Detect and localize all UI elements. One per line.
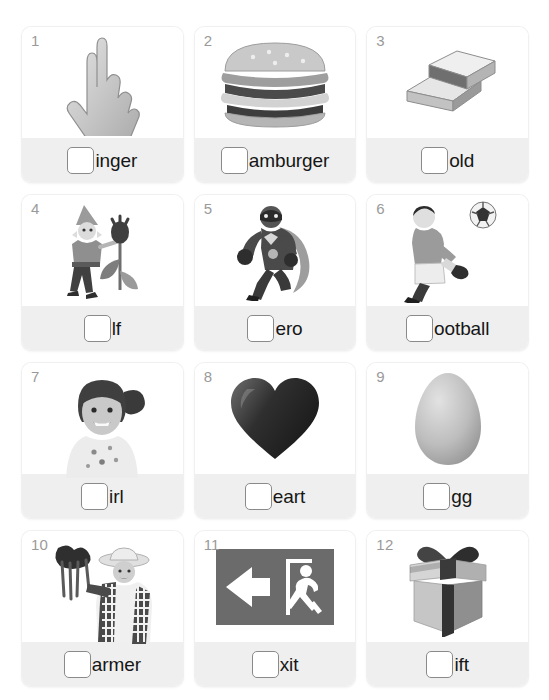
card-number: 4 — [31, 201, 40, 216]
missing-letter-box[interactable] — [252, 651, 279, 678]
missing-letter-box[interactable] — [245, 483, 272, 510]
card-number: 5 — [204, 201, 213, 216]
heart-icon — [195, 363, 356, 474]
card-answer-area: ootball — [367, 306, 528, 350]
card-answer-area: amburger — [195, 138, 356, 182]
card-row: 7 — [22, 363, 528, 518]
word-card[interactable]: 3 old — [367, 27, 528, 182]
card-answer-area: armer — [22, 642, 183, 686]
card-image-area: 7 — [22, 363, 183, 474]
card-number: 9 — [376, 369, 385, 384]
word-tail: amburger — [249, 151, 330, 170]
card-image-area: 1 — [22, 27, 183, 138]
card-image-area: 11 — [195, 531, 356, 642]
card-image-area: 6 — [367, 195, 528, 306]
card-answer-area: gg — [367, 474, 528, 518]
word-card[interactable]: 10 — [22, 531, 183, 686]
card-answer-area: ift — [367, 642, 528, 686]
card-image-area: 12 — [367, 531, 528, 642]
missing-letter-box[interactable] — [406, 315, 433, 342]
card-image-area: 9 — [367, 363, 528, 474]
card-number: 7 — [31, 369, 40, 384]
card-answer-area: eart — [195, 474, 356, 518]
card-row: 10 — [22, 531, 528, 686]
word-tail: armer — [92, 655, 141, 674]
missing-letter-box[interactable] — [81, 483, 108, 510]
missing-letter-box[interactable] — [84, 315, 111, 342]
card-answer-area: ero — [195, 306, 356, 350]
card-image-area: 3 — [367, 27, 528, 138]
worksheet-page: 1 inger 2 — [0, 0, 549, 700]
card-image-area: 8 — [195, 363, 356, 474]
card-answer-area: lf — [22, 306, 183, 350]
word-tail: old — [449, 151, 474, 170]
word-tail: irl — [109, 487, 123, 506]
missing-letter-box[interactable] — [64, 651, 91, 678]
word-card[interactable]: 12 ift — [367, 531, 528, 686]
gold-bars-icon — [367, 27, 528, 138]
word-tail: ift — [454, 655, 468, 674]
egg-icon — [367, 363, 528, 474]
word-tail: inger — [95, 151, 137, 170]
word-card[interactable]: 2 amburger — [195, 27, 356, 182]
superhero-icon — [195, 195, 356, 306]
word-tail: eart — [273, 487, 305, 506]
missing-letter-box[interactable] — [421, 147, 448, 174]
card-number: 12 — [376, 537, 393, 552]
word-tail: ootball — [434, 319, 489, 338]
missing-letter-box[interactable] — [67, 147, 94, 174]
word-card[interactable]: 5 — [195, 195, 356, 350]
card-number: 10 — [31, 537, 48, 552]
card-answer-area: irl — [22, 474, 183, 518]
card-number: 11 — [204, 537, 220, 552]
card-number: 8 — [204, 369, 213, 384]
card-image-area: 5 — [195, 195, 356, 306]
word-tail: xit — [280, 655, 299, 674]
card-row: 1 inger 2 — [22, 27, 528, 182]
hamburger-icon — [195, 27, 356, 138]
card-image-area: 4 — [22, 195, 183, 306]
card-number: 1 — [31, 33, 40, 48]
pointing-hand-icon — [22, 27, 183, 138]
missing-letter-box[interactable] — [221, 147, 248, 174]
word-card[interactable]: 6 — [367, 195, 528, 350]
word-card[interactable]: 4 — [22, 195, 183, 350]
card-number: 6 — [376, 201, 385, 216]
word-card[interactable]: 1 inger — [22, 27, 183, 182]
word-card[interactable]: 9 gg — [367, 363, 528, 518]
card-number: 2 — [204, 33, 213, 48]
smiling-girl-icon — [22, 363, 183, 474]
word-tail: ero — [275, 319, 302, 338]
card-image-area: 2 — [195, 27, 356, 138]
boy-kicking-football-icon — [367, 195, 528, 306]
card-answer-area: old — [367, 138, 528, 182]
missing-letter-box[interactable] — [426, 651, 453, 678]
card-image-area: 10 — [22, 531, 183, 642]
missing-letter-box[interactable] — [423, 483, 450, 510]
elf-with-tulip-icon — [22, 195, 183, 306]
word-tail: lf — [112, 319, 121, 338]
card-row: 4 — [22, 195, 528, 350]
card-number: 3 — [376, 33, 385, 48]
word-card[interactable]: 11 xit — [195, 531, 356, 686]
word-tail: gg — [451, 487, 472, 506]
word-card[interactable]: 7 — [22, 363, 183, 518]
card-answer-area: inger — [22, 138, 183, 182]
missing-letter-box[interactable] — [247, 315, 274, 342]
word-card[interactable]: 8 eart — [195, 363, 356, 518]
card-answer-area: xit — [195, 642, 356, 686]
